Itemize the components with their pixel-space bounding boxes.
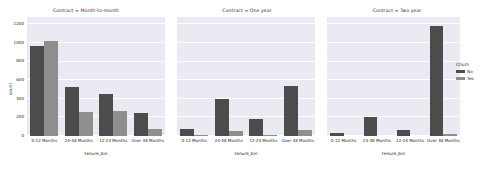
legend-title: Churn bbox=[456, 62, 490, 68]
bar bbox=[99, 94, 113, 136]
facet-title: Contract = Month-to-month bbox=[0, 8, 172, 14]
y-tick-label: 1200 bbox=[3, 22, 24, 26]
bar bbox=[284, 86, 298, 136]
facet-title: Contract = Two year bbox=[322, 8, 472, 14]
facet-panel-one-year: Contract = One year 0-12 Months24-48 Mon… bbox=[172, 0, 322, 174]
bar-group bbox=[27, 17, 62, 136]
bar-group bbox=[394, 17, 427, 136]
facet-title: Contract = One year bbox=[172, 8, 322, 14]
x-tick-label: 0-12 Months bbox=[327, 139, 360, 143]
facet-panel-two-year: Contract = Two year 0-12 Months24-48 Mon… bbox=[322, 0, 472, 174]
bar bbox=[397, 130, 410, 137]
bar-series-group bbox=[327, 17, 460, 136]
bar bbox=[30, 46, 44, 136]
x-tick-label: 0-12 Months bbox=[27, 139, 62, 143]
legend-item-no[interactable]: No bbox=[456, 69, 490, 75]
x-tick-label: 12-24 Months bbox=[394, 139, 427, 143]
x-tick-label: Over 48 Months bbox=[131, 139, 166, 143]
bar bbox=[263, 135, 277, 136]
bar-group bbox=[177, 17, 212, 136]
y-tick-label: 400 bbox=[3, 97, 24, 101]
bar bbox=[249, 119, 263, 136]
bar-group bbox=[96, 17, 131, 136]
bar-group bbox=[360, 17, 393, 136]
x-tick-label: 24-48 Months bbox=[360, 139, 393, 143]
bar bbox=[229, 131, 243, 136]
y-tick-label: 600 bbox=[3, 78, 24, 82]
legend-swatch-icon bbox=[456, 70, 465, 73]
bar-group bbox=[427, 17, 460, 136]
y-tick-label: 800 bbox=[3, 59, 24, 63]
bar-group bbox=[327, 17, 360, 136]
bar bbox=[330, 133, 343, 136]
bar bbox=[113, 111, 127, 136]
x-tick-label: 12-24 Months bbox=[96, 139, 131, 143]
bar-series-group bbox=[27, 17, 165, 136]
plot-area bbox=[177, 17, 315, 136]
bar bbox=[65, 87, 79, 136]
facet-panel-month-to-month: Contract = Month-to-month 02004006008001… bbox=[0, 0, 172, 174]
bar-group bbox=[212, 17, 247, 136]
x-tick-label: 0-12 Months bbox=[177, 139, 212, 143]
bar bbox=[430, 26, 443, 136]
x-tick-label: 24-48 Months bbox=[212, 139, 247, 143]
bar bbox=[298, 130, 312, 136]
bar bbox=[44, 41, 58, 136]
plot-area bbox=[327, 17, 460, 136]
y-tick-label: 1000 bbox=[3, 41, 24, 45]
bar-group bbox=[62, 17, 97, 136]
bar bbox=[443, 134, 456, 136]
legend-label: Yes bbox=[467, 76, 474, 81]
legend-item-yes[interactable]: Yes bbox=[456, 76, 490, 82]
bar-series-group bbox=[177, 17, 315, 136]
bar bbox=[215, 99, 229, 136]
x-tick-label: Over 48 Months bbox=[427, 139, 460, 143]
bar-group bbox=[246, 17, 281, 136]
y-tick-label: 200 bbox=[3, 115, 24, 119]
x-tick-label: 24-48 Months bbox=[62, 139, 97, 143]
legend-swatch-icon bbox=[456, 77, 465, 80]
bar bbox=[194, 135, 208, 136]
bar bbox=[148, 129, 162, 136]
legend: Churn No Yes bbox=[456, 62, 490, 83]
legend-label: No bbox=[467, 69, 473, 74]
facet-grid: Contract = Month-to-month 02004006008001… bbox=[0, 0, 494, 174]
x-tick-label: Over 48 Months bbox=[281, 139, 316, 143]
bar bbox=[134, 113, 148, 136]
bar-group bbox=[131, 17, 166, 136]
x-axis-label: tenure_bin bbox=[327, 151, 460, 156]
x-tick-label: 12-24 Months bbox=[246, 139, 281, 143]
bar bbox=[180, 129, 194, 136]
plot-area bbox=[27, 17, 165, 136]
y-tick-label: 0 bbox=[3, 134, 24, 138]
bar-group bbox=[281, 17, 316, 136]
x-axis-label: tenure_bin bbox=[27, 151, 165, 156]
chart-figure: Contract = Month-to-month 02004006008001… bbox=[0, 0, 494, 174]
bar bbox=[79, 112, 93, 136]
y-axis-label: count bbox=[8, 83, 13, 95]
bar bbox=[364, 117, 377, 136]
x-axis-label: tenure_bin bbox=[177, 151, 315, 156]
